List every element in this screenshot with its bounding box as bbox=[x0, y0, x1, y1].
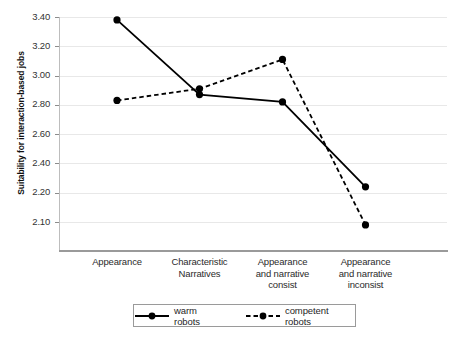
x-axis-label-line: and narrative bbox=[237, 268, 329, 280]
data-point bbox=[362, 183, 369, 190]
legend-item[interactable]: warm robots bbox=[134, 305, 224, 327]
x-axis-label: Appearance bbox=[71, 256, 163, 268]
x-axis-label: Appearanceand narrativeinconsist bbox=[320, 256, 412, 291]
legend-swatch-icon bbox=[134, 311, 169, 321]
data-point bbox=[113, 97, 120, 104]
x-axis-label-line: and narrative bbox=[320, 268, 412, 280]
x-axis-label-line: inconsist bbox=[320, 279, 412, 291]
legend-item[interactable]: competent robots bbox=[245, 305, 355, 327]
legend-swatch-icon bbox=[245, 311, 280, 321]
data-point bbox=[279, 98, 286, 105]
x-axis-label-line: Appearance bbox=[320, 256, 412, 268]
data-point bbox=[279, 56, 286, 63]
x-axis-label: Appearanceand narrativeconsist bbox=[237, 256, 329, 291]
legend-label: competent robots bbox=[285, 305, 355, 327]
x-axis-label-line: consist bbox=[237, 279, 329, 291]
legend: warm robotscompetent robots bbox=[133, 304, 356, 327]
data-point bbox=[113, 16, 120, 23]
line-chart: Suitability for interaction-based jobs 3… bbox=[0, 0, 460, 337]
x-axis-label-line: Narratives bbox=[154, 268, 246, 280]
series-line-warm-robots bbox=[117, 20, 366, 187]
data-point bbox=[362, 221, 369, 228]
series-line-competent-robots bbox=[117, 59, 366, 224]
x-axis-label-line: Appearance bbox=[237, 256, 329, 268]
x-axis-label-line: Characteristic bbox=[154, 256, 246, 268]
data-point bbox=[196, 85, 203, 92]
x-axis-label: CharacteristicNarratives bbox=[154, 256, 246, 279]
x-axis-label-line: Appearance bbox=[71, 256, 163, 268]
legend-label: warm robots bbox=[174, 305, 224, 327]
